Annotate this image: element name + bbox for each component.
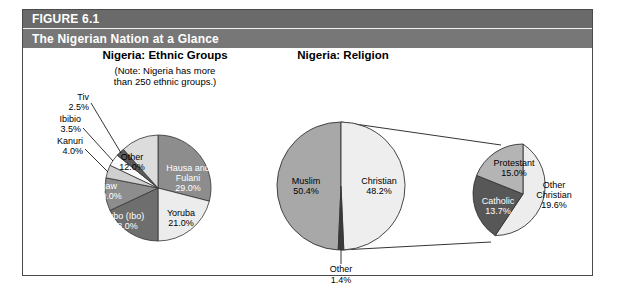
pie-label-other-christian-name: Other — [526, 180, 582, 191]
pie-label-protestant-value: 15.0% — [481, 168, 547, 179]
figure-subtitle-label: The Nigerian Nation at a Glance — [32, 32, 219, 46]
pie-label-other-christian-name2: Christian — [526, 190, 582, 201]
pie-label-catholic-name: Catholic — [469, 196, 527, 207]
figure-frame: FIGURE 6.1 The Nigerian Nation at a Glan… — [22, 9, 593, 276]
figure-number-bar: FIGURE 6.1 — [23, 10, 592, 29]
figure-number-label: FIGURE 6.1 — [32, 12, 99, 26]
pie-label-protestant-name: Protestant — [481, 158, 547, 169]
pie-label-other-christian-value: 19.6% — [526, 200, 582, 211]
pie-label-catholic-value: 13.7% — [469, 206, 527, 217]
figure-body: Nigeria: Ethnic Groups (Note: Nigeria ha… — [23, 48, 592, 275]
figure-subtitle-bar: The Nigerian Nation at a Glance — [23, 29, 592, 48]
